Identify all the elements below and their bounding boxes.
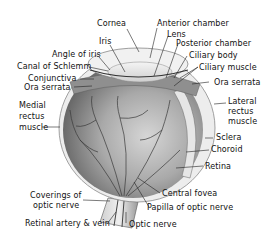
label-ora-serrata-left: Ora serrata — [24, 83, 71, 92]
label-lens: Lens — [167, 30, 186, 39]
label-cornea: Cornea — [97, 19, 126, 28]
label-lateral-rectus-line1: Lateral — [228, 97, 257, 106]
label-canal-of-schlemm: Canal of Schlemm — [17, 62, 91, 71]
label-posterior-chamber: Posterior chamber — [176, 39, 251, 48]
label-medial-rectus-line1: Medial — [19, 101, 46, 110]
label-ora-serrata-right: Ora serrata — [214, 78, 261, 87]
label-sclera: Sclera — [216, 133, 241, 142]
label-iris: Iris — [99, 37, 111, 46]
label-coverings-line2: optic nerve — [33, 201, 79, 210]
label-lateral-rectus-line3: muscle — [228, 117, 257, 126]
label-ciliary-body: Ciliary body — [189, 51, 238, 60]
label-medial-rectus-line3: muscle — [19, 123, 48, 132]
label-central-fovea: Central fovea — [162, 189, 217, 198]
lens-shape — [108, 62, 172, 82]
label-papilla-of-optic-nerve: Papilla of optic nerve — [147, 203, 233, 212]
label-lateral-rectus-line2: rectus — [228, 107, 253, 116]
eye-diagram: Cornea Anterior chamber Iris Lens Poster… — [0, 0, 278, 244]
label-medial-rectus-line2: rectus — [19, 112, 44, 121]
label-optic-nerve: Optic nerve — [129, 220, 177, 229]
label-choroid: Choroid — [211, 145, 243, 154]
label-retina: Retina — [205, 162, 231, 171]
label-retinal-artery-vein: Retinal artery & vein — [25, 219, 110, 228]
label-angle-of-iris: Angle of iris — [52, 50, 101, 59]
label-anterior-chamber: Anterior chamber — [157, 19, 229, 28]
label-coverings-line1: Coverings of — [30, 191, 81, 200]
label-conjunctiva: Conjunctiva — [28, 74, 76, 83]
label-ciliary-muscle: Ciliary muscle — [199, 63, 257, 72]
